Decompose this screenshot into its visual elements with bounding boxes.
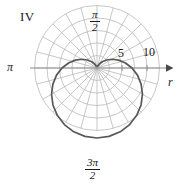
fraction-pi-over-2: π 2 (90, 9, 100, 33)
angle-label-pi: π (7, 61, 13, 73)
polar-plot-figure: IV π 2 π 3π 2 5 10 r (0, 0, 187, 186)
polar-axis-arrowhead (166, 64, 174, 72)
radial-tick-label-5: 5 (118, 47, 124, 59)
figure-number-label: IV (20, 10, 34, 23)
angle-label-pi-over-2: π 2 (90, 9, 100, 33)
fraction-numerator: 3π (85, 157, 100, 170)
pole-point (96, 67, 98, 69)
angle-label-3pi-over-2: 3π 2 (85, 157, 100, 181)
fraction-denominator: 2 (90, 22, 100, 34)
fraction-3pi-over-2: 3π 2 (85, 157, 100, 181)
fraction-denominator: 2 (85, 170, 100, 182)
axis-label-r: r (168, 76, 173, 88)
fraction-numerator: π (90, 9, 100, 22)
radial-tick-label-10: 10 (143, 46, 155, 58)
